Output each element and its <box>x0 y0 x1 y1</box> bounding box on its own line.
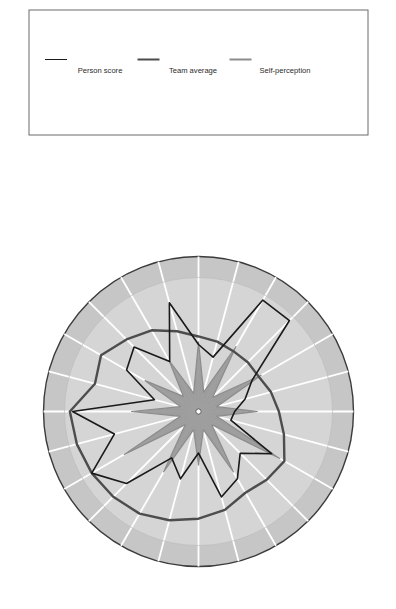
radar-chart-page: Person score Team average Self-perceptio… <box>0 0 396 609</box>
legend-label-person-score: Person score <box>77 66 122 75</box>
radar-chart-svg <box>0 139 396 609</box>
chart-legend: Person score Team average Self-perceptio… <box>28 9 368 135</box>
legend-swatch-self-perception <box>229 58 251 82</box>
legend-swatch-person-score <box>45 59 67 82</box>
legend-item: Team average <box>131 18 223 126</box>
legend-swatch-team-average <box>137 58 159 82</box>
legend-label-self-perception: Self-perception <box>258 66 309 75</box>
legend-item: Self-perception <box>223 18 315 126</box>
figure-rotor: Person score Team average Self-perceptio… <box>0 0 396 609</box>
legend-label-team-average: Team average <box>168 66 216 75</box>
radar-plot-area <box>0 139 396 609</box>
legend-item: Person score <box>39 18 131 126</box>
